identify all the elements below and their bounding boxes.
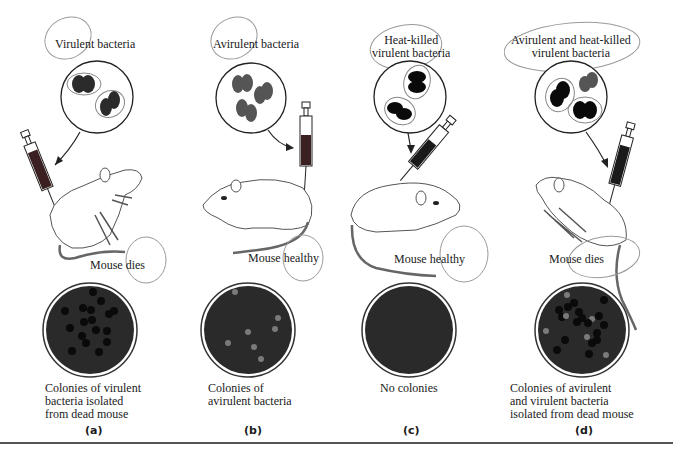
panel-d: Avirulent and heat-killed virulent bacte…	[504, 0, 672, 440]
outcome-label: Mouse dies	[90, 258, 145, 273]
bacteria-magnified-circle	[216, 63, 286, 133]
mouse-healthy-icon	[203, 180, 312, 253]
plate-caption: Colonies of virulent bacteria isolated f…	[45, 382, 141, 421]
mouse-dying-icon	[50, 168, 142, 259]
syringe-icon	[300, 102, 312, 198]
bacteria-magnified-circle	[535, 61, 607, 133]
outcome-label: Mouse healthy	[248, 251, 319, 266]
outcome-label: Mouse healthy	[394, 252, 465, 267]
inoculum-label: Avirulent bacteria	[213, 38, 299, 51]
plate-caption: Colonies of avirulent and virulent bacte…	[510, 382, 634, 421]
panel-d-illustration	[504, 0, 673, 440]
inoculum-label: Virulent bacteria	[55, 38, 135, 51]
outcome-label: Mouse dies	[549, 252, 604, 267]
panel-c-illustration	[336, 0, 504, 440]
panel-label: (a)	[85, 424, 102, 437]
bottom-divider	[0, 442, 673, 444]
bacteria-magnified-circle	[374, 61, 446, 133]
inoculum-label: Heat-killed virulent bacteria	[372, 34, 450, 60]
plate-caption: No colonies	[380, 382, 438, 395]
panel-label: (b)	[244, 424, 262, 437]
petri-plate	[535, 283, 629, 377]
panel-b: Avirulent bacteria Mouse healthy Colonie…	[168, 0, 336, 440]
bacteria-magnified-circle	[61, 61, 133, 133]
panel-c: Heat-killed virulent bacteria Mouse heal…	[336, 0, 504, 440]
petri-plate	[201, 283, 295, 377]
panel-a: Virulent bacteria Mouse dies Colonies of…	[0, 0, 168, 440]
panel-a-illustration	[0, 0, 168, 440]
panel-label: (d)	[575, 424, 593, 437]
plate-caption: Colonies of avirulent bacteria	[208, 382, 292, 408]
inoculum-label: Avirulent and heat-killed virulent bacte…	[511, 34, 631, 60]
syringe-icon	[19, 129, 61, 210]
panel-b-illustration	[168, 0, 336, 440]
petri-plate	[43, 283, 137, 377]
petri-plate	[362, 283, 456, 377]
panel-label: (c)	[403, 424, 420, 437]
